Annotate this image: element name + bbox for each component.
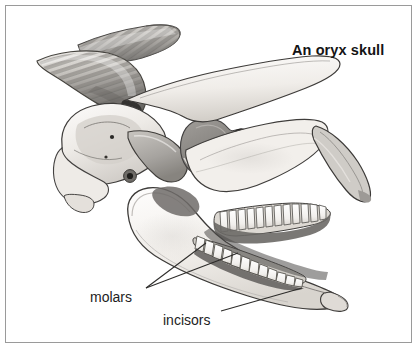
figure-container: An oryx skull molars incisors: [0, 0, 418, 349]
label-molars: molars: [90, 289, 132, 305]
upper-molar-row: [214, 203, 331, 244]
premaxilla: [312, 126, 371, 202]
figure-title: An oryx skull: [292, 42, 384, 58]
label-incisors: incisors: [163, 312, 210, 328]
